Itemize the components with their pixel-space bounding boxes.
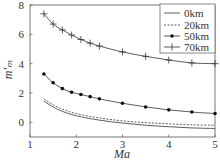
circle-marker-icon — [61, 87, 65, 91]
y-tick-label: 2 — [19, 87, 25, 99]
circle-marker-icon — [190, 110, 194, 114]
x-tick-label: 2 — [74, 138, 80, 150]
x-tick-label: 1 — [27, 138, 33, 150]
legend-label: 0km — [184, 7, 204, 19]
y-tick-label: 4 — [19, 58, 25, 70]
legend-label: 70km — [184, 41, 210, 53]
series-0km — [44, 101, 215, 128]
circle-marker-icon — [144, 105, 148, 109]
y-axis-title: m′ₘ — [1, 60, 15, 79]
circle-marker-icon — [88, 95, 92, 99]
y-tick-label: 6 — [19, 28, 25, 40]
series-50km — [42, 72, 217, 115]
circle-marker-icon — [170, 34, 174, 38]
circle-marker-icon — [79, 93, 83, 97]
circle-marker-icon — [98, 97, 102, 101]
x-tick-label: 5 — [212, 138, 218, 150]
legend: 0km 20km 50km 70km — [160, 4, 215, 53]
x-axis-title: Ma — [113, 147, 130, 161]
circle-marker-icon — [167, 108, 171, 112]
line-chart: 1234502468 0km 20km 50km 70km Ma m′ₘ — [0, 0, 220, 163]
circle-marker-icon — [213, 112, 217, 116]
circle-marker-icon — [51, 81, 55, 85]
circle-marker-icon — [121, 101, 125, 105]
y-tick-label: 8 — [19, 0, 25, 11]
x-tick-label: 4 — [166, 138, 172, 150]
y-tick-label: 0 — [19, 116, 25, 128]
circle-marker-icon — [70, 90, 74, 94]
circle-marker-icon — [42, 72, 46, 76]
